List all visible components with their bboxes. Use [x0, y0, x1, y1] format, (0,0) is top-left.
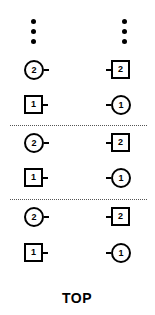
pin-number: 1 — [118, 249, 123, 258]
pin-square-left: 1 — [24, 243, 43, 262]
pin-square-right: 2 — [111, 133, 130, 152]
dot-icon — [122, 29, 127, 34]
pin-number: 1 — [31, 173, 36, 182]
pin-number: 2 — [31, 213, 36, 222]
pin-circle-right: 1 — [111, 95, 131, 115]
pin-circle-left: 2 — [24, 60, 44, 80]
dot-icon — [31, 29, 36, 34]
dot-icon — [31, 39, 36, 44]
pin-square-left: 1 — [24, 168, 43, 187]
pin-stub — [43, 177, 48, 179]
pin-stub — [44, 142, 49, 144]
pin-circle-right: 1 — [111, 243, 131, 263]
pin-number: 2 — [31, 139, 36, 148]
pin-stub — [44, 216, 49, 218]
pin-circle-left: 2 — [24, 133, 44, 153]
pin-number: 1 — [31, 100, 36, 109]
orientation-label: TOP — [62, 290, 92, 306]
pin-number: 2 — [118, 138, 123, 147]
group-divider — [10, 125, 147, 126]
pin-circle-left: 2 — [24, 207, 44, 227]
pin-circle-right: 1 — [111, 168, 131, 188]
pin-number: 2 — [31, 66, 36, 75]
dot-icon — [122, 39, 127, 44]
pin-number: 1 — [31, 248, 36, 257]
pin-number: 2 — [118, 212, 123, 221]
pin-stub — [44, 69, 49, 71]
pin-number: 2 — [118, 65, 123, 74]
pin-number: 1 — [118, 174, 123, 183]
pin-square-right: 2 — [111, 207, 130, 226]
dot-icon — [122, 19, 127, 24]
pin-stub — [43, 104, 48, 106]
pin-stub — [43, 252, 48, 254]
dot-icon — [31, 19, 36, 24]
pin-number: 1 — [118, 101, 123, 110]
group-divider — [10, 199, 147, 200]
pin-square-left: 1 — [24, 95, 43, 114]
pin-square-right: 2 — [111, 60, 130, 79]
